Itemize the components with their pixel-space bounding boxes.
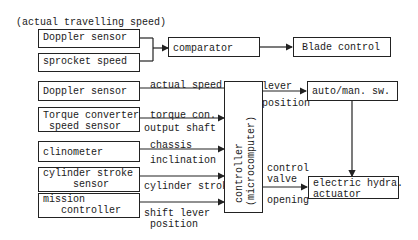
cylinder-stroke-label: cylinder stroke [144,181,234,192]
mission-controller-box: mission controller [38,193,140,218]
electric-hydra-actuator-box: electric hydra. actuator [308,176,399,199]
actual-travelling-speed-label: (actual travelling speed) [16,17,166,28]
output-shaft-label: output shaft [144,123,216,134]
torque-con-label: torque con. [150,110,216,121]
clinometer-box: clinometer [38,141,140,162]
sprocket-speed-box: sprocket speed [38,53,140,72]
chassis-label: chassis [150,140,192,151]
control-valve-label: control valve [267,163,309,185]
opening-label: opening [267,195,309,206]
doppler-sensor-box: Doppler sensor [38,81,140,101]
shift-lever-position-label: shift lever position [144,208,210,230]
cylinder-stroke-sensor-box: cylinder stroke sensor [38,167,140,192]
torque-converter-speed-sensor-box: Torque converter speed sensor [38,107,140,132]
position-label: position [262,98,310,109]
comparator-box: comparator [168,37,260,57]
doppler-sensor-box-top: Doppler sensor [38,29,140,48]
auto-man-switch-box: auto/man. sw. [307,81,398,101]
controller-box: controller (microcomputer) [224,81,263,213]
inclination-label: inclination [150,155,216,166]
blade-control-box: Blade control [293,37,391,57]
lever-label: lever [262,81,292,92]
actual-speed-label: actual speed [150,80,222,91]
microcomputer-label: (microcomputer) [246,116,257,206]
controller-label: controller [234,143,245,203]
